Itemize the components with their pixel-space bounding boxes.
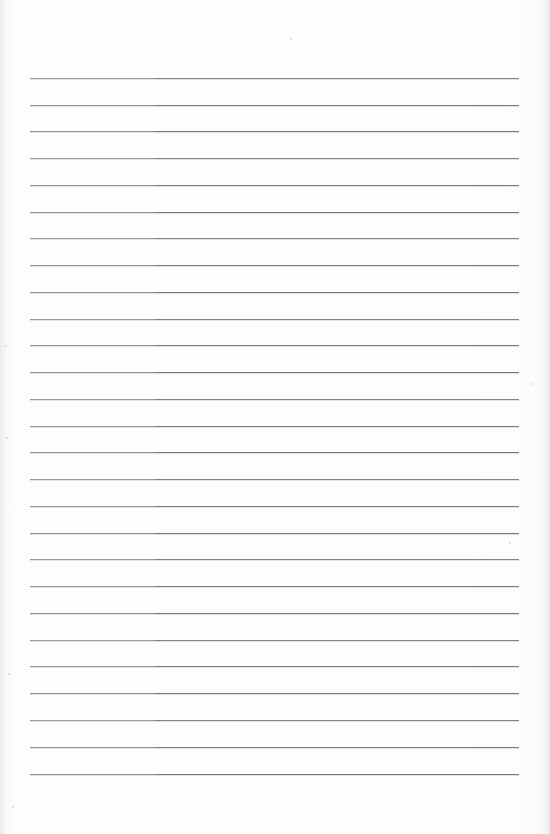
ruled-line xyxy=(30,747,519,748)
ruled-line xyxy=(30,399,519,400)
ruled-line xyxy=(30,774,519,775)
ruled-line xyxy=(30,693,519,694)
ruled-line xyxy=(30,666,519,667)
ruled-line xyxy=(30,613,519,614)
ruled-line xyxy=(30,452,519,453)
ruled-line xyxy=(30,479,519,480)
ruled-line xyxy=(30,292,519,293)
ruled-line xyxy=(30,720,519,721)
ruled-line xyxy=(30,559,519,560)
ruled-lines-layer xyxy=(0,0,550,834)
ruled-line xyxy=(30,158,519,159)
ruled-line xyxy=(30,319,519,320)
ruled-line xyxy=(30,78,519,79)
ruled-line xyxy=(30,185,519,186)
ruled-line xyxy=(30,238,519,239)
ruled-line xyxy=(30,372,519,373)
ruled-line xyxy=(30,586,519,587)
ruled-line xyxy=(30,131,519,132)
ruled-line xyxy=(30,345,519,346)
ruled-line xyxy=(30,533,519,534)
ruled-line xyxy=(30,265,519,266)
ruled-line xyxy=(30,640,519,641)
scanned-page xyxy=(0,0,550,834)
ruled-line xyxy=(30,426,519,427)
ruled-line xyxy=(30,506,519,507)
ruled-line xyxy=(30,105,519,106)
ruled-line xyxy=(30,212,519,213)
